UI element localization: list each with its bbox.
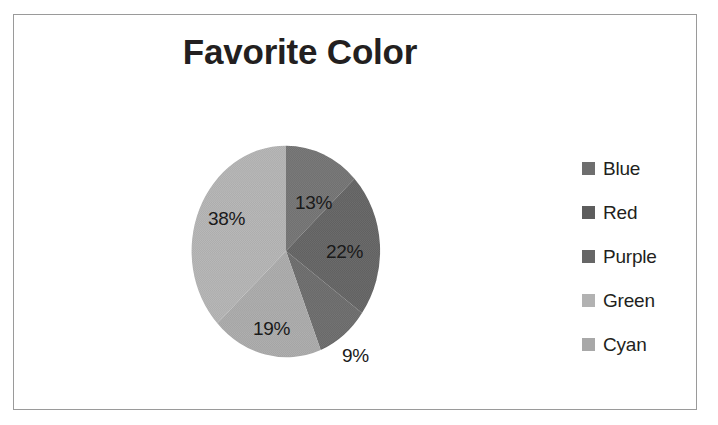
chart-title: Favorite Color bbox=[40, 34, 560, 71]
pie-data-label-blue: 13% bbox=[295, 192, 332, 214]
chart-canvas: Favorite Color bbox=[0, 0, 718, 425]
legend-swatch-icon-purple bbox=[582, 250, 595, 263]
pie-data-label-green: 38% bbox=[208, 208, 245, 230]
legend-item-red[interactable]: Red bbox=[582, 190, 692, 234]
pie-data-label-purple: 9% bbox=[342, 345, 369, 367]
legend-item-purple[interactable]: Purple bbox=[582, 234, 692, 278]
legend-swatch-icon-green bbox=[582, 294, 595, 307]
legend-label-purple: Purple bbox=[603, 247, 657, 266]
legend-item-green[interactable]: Green bbox=[582, 278, 692, 322]
legend-swatch-icon-cyan bbox=[582, 338, 595, 351]
legend-label-blue: Blue bbox=[603, 159, 640, 178]
legend-label-cyan: Cyan bbox=[603, 335, 647, 354]
legend-swatch-icon-red bbox=[582, 206, 595, 219]
legend-item-cyan[interactable]: Cyan bbox=[582, 322, 692, 366]
pie-data-label-red: 22% bbox=[326, 241, 363, 263]
legend-swatch-icon-blue bbox=[582, 162, 595, 175]
legend-item-blue[interactable]: Blue bbox=[582, 146, 692, 190]
pie-data-label-cyan: 19% bbox=[253, 318, 290, 340]
chart-legend: Blue Red Purple Green Cyan bbox=[582, 146, 692, 366]
legend-label-green: Green bbox=[603, 291, 655, 310]
legend-label-red: Red bbox=[603, 203, 637, 222]
